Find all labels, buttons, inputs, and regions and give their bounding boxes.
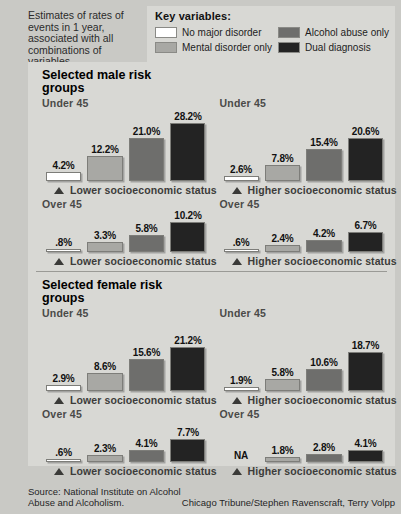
axis-row: Lower socioeconomic status	[42, 181, 212, 196]
bar	[306, 369, 341, 391]
legend: Key variables: No major disorderAlcohol …	[147, 6, 395, 62]
bar-item[interactable]: 1.9%	[224, 305, 259, 391]
bar	[46, 459, 81, 462]
age-row: Under 454.2%12.2%21.0%28.2%Lower socioec…	[34, 95, 389, 196]
bar-item[interactable]: 2.9%	[46, 305, 81, 391]
bar-chart: NA1.8%2.8%4.1%	[220, 406, 390, 462]
bar-value-label: 4.1%	[354, 438, 376, 449]
bar	[348, 138, 383, 181]
triangle-marker-icon	[54, 187, 64, 194]
ses-group: Over 45NA1.8%2.8%4.1%Higher socioeconomi…	[212, 406, 390, 477]
bar-item[interactable]: 7.7%	[170, 406, 205, 462]
legend-swatch-icon	[278, 27, 300, 38]
bar-item[interactable]: 4.2%	[306, 196, 341, 252]
bar	[170, 222, 205, 252]
bar-item[interactable]: 4.1%	[129, 406, 164, 462]
chart-section: Selected female risk groupsUnder 452.9%8…	[28, 272, 395, 477]
bar-group: 4.2%12.2%21.0%28.2%	[46, 95, 206, 181]
header: Estimates of rates of events in 1 year, …	[0, 0, 401, 62]
bar-group: 1.9%5.8%10.6%18.7%	[224, 305, 384, 391]
bar-value-label: 2.6%	[230, 164, 252, 175]
bar-group: .6%2.3%4.1%7.7%	[46, 406, 206, 462]
bar-value-label: 4.2%	[313, 228, 335, 239]
bar	[170, 439, 205, 462]
bar-item[interactable]: 4.1%	[348, 406, 383, 462]
legend-swatch-icon	[155, 42, 177, 53]
bar-item[interactable]: 5.8%	[265, 305, 300, 391]
bar-item[interactable]: 12.2%	[87, 95, 122, 181]
axis-row: Higher socioeconomic status	[220, 391, 390, 406]
bar-item[interactable]: 5.8%	[129, 196, 164, 252]
bar-item[interactable]: 21.0%	[129, 95, 164, 181]
legend-items: No major disorderAlcohol abuse onlyMenta…	[155, 25, 389, 55]
bar-chart: .6%2.4%4.2%6.7%	[220, 196, 390, 252]
bar-item[interactable]: 6.7%	[348, 196, 383, 252]
bar	[306, 240, 341, 252]
bar-item[interactable]: 2.8%	[306, 406, 341, 462]
bar-item[interactable]: 15.6%	[129, 305, 164, 391]
bar-item[interactable]: .6%	[46, 406, 81, 462]
bar	[224, 249, 259, 252]
bar	[265, 165, 300, 181]
bar-item[interactable]: .6%	[224, 196, 259, 252]
bar-group: NA1.8%2.8%4.1%	[224, 406, 384, 462]
bar	[129, 138, 164, 181]
bar-chart: 2.6%7.8%15.4%20.6%	[220, 95, 390, 181]
bar-group: 2.9%8.6%15.6%21.2%	[46, 305, 206, 391]
bar-item[interactable]: NA	[224, 406, 259, 462]
bar	[265, 457, 300, 462]
bar-item[interactable]: 3.3%	[87, 196, 122, 252]
bar	[129, 359, 164, 391]
bar	[170, 123, 205, 181]
bar-item[interactable]: .8%	[46, 196, 81, 252]
bar-item[interactable]: 2.4%	[265, 196, 300, 252]
bar-value-label: 15.4%	[310, 137, 337, 148]
bar-item[interactable]: 8.6%	[87, 305, 122, 391]
bar-item[interactable]: 18.7%	[348, 305, 383, 391]
bar-item[interactable]: 20.6%	[348, 95, 383, 181]
axis-row: Higher socioeconomic status	[220, 181, 390, 196]
legend-swatch-icon	[155, 27, 177, 38]
axis-row: Lower socioeconomic status	[42, 391, 212, 406]
bar-item[interactable]: 1.8%	[265, 406, 300, 462]
ses-group: Over 45.6%2.4%4.2%6.7%Higher socioeconom…	[212, 196, 390, 267]
chart-panel: Selected male risk groupsUnder 454.2%12.…	[28, 62, 395, 466]
bar	[306, 149, 341, 181]
bar-item[interactable]: 15.4%	[306, 95, 341, 181]
chart-section: Selected male risk groupsUnder 454.2%12.…	[28, 62, 395, 267]
legend-item-label: No major disorder	[182, 27, 261, 38]
bar-item[interactable]: 10.6%	[306, 305, 341, 391]
bar-group: .6%2.4%4.2%6.7%	[224, 196, 384, 252]
bar-item[interactable]: 28.2%	[170, 95, 205, 181]
axis-label: Lower socioeconomic status	[70, 394, 217, 406]
bar-item[interactable]: 2.6%	[224, 95, 259, 181]
bar-value-label: 18.7%	[352, 340, 379, 351]
bar	[129, 450, 164, 462]
bar	[306, 454, 341, 462]
bar-chart: .8%3.3%5.8%10.2%	[42, 196, 212, 252]
bar	[46, 385, 81, 391]
bar-item[interactable]: 7.8%	[265, 95, 300, 181]
bar-value-label: 4.1%	[135, 438, 157, 449]
ses-group: Under 451.9%5.8%10.6%18.7%Higher socioec…	[212, 305, 390, 406]
bar-item[interactable]: 2.3%	[87, 406, 122, 462]
bar-value-label: 2.8%	[313, 442, 335, 453]
bar-item[interactable]: 21.2%	[170, 305, 205, 391]
bar-value-label: 5.8%	[135, 223, 157, 234]
bar-value-label: 2.9%	[53, 373, 75, 384]
axis-label: Higher socioeconomic status	[248, 255, 397, 267]
bar-value-label: 4.2%	[53, 160, 75, 171]
source-note: Source: National Institute on Alcohol Ab…	[28, 486, 182, 510]
bar-item[interactable]: 10.2%	[170, 196, 205, 252]
bar	[224, 387, 259, 391]
bar-value-label: 1.8%	[272, 445, 294, 456]
bar-item[interactable]: 4.2%	[46, 95, 81, 181]
bar	[87, 455, 122, 462]
ses-group: Over 45.8%3.3%5.8%10.2%Lower socioeconom…	[34, 196, 212, 267]
section-title: Selected male risk groups	[34, 62, 172, 95]
age-row: Under 452.9%8.6%15.6%21.2%Lower socioeco…	[34, 305, 389, 406]
bar-value-label: 15.6%	[133, 347, 160, 358]
credit-note: Chicago Tribune/Stephen Ravenscraft, Ter…	[182, 497, 395, 510]
bar-value-label: 21.0%	[133, 126, 160, 137]
bar-value-label: 7.8%	[272, 153, 294, 164]
